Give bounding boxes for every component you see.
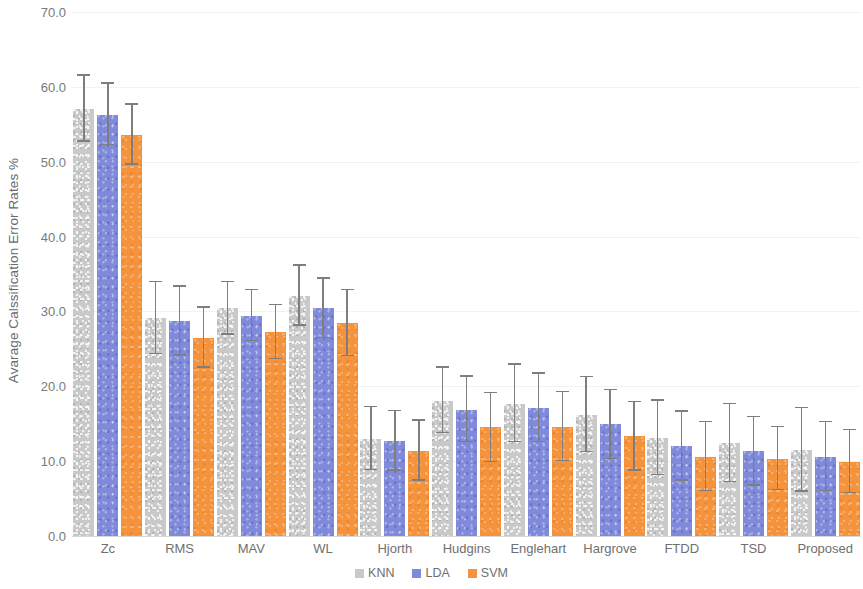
error-bar-line xyxy=(681,412,682,481)
bar-group-bars xyxy=(646,12,718,536)
error-bar-cap-upper xyxy=(723,403,736,404)
bar-lda[interactable] xyxy=(241,316,262,536)
bar-slot xyxy=(408,12,429,536)
y-axis-tick-label: 50.0 xyxy=(22,154,66,169)
error-bar-cap-upper xyxy=(556,391,569,392)
error-bar-cap-lower xyxy=(771,489,784,490)
legend-item-lda[interactable]: LDA xyxy=(412,566,449,580)
error-bar-line xyxy=(825,422,826,491)
error-bar-cap-lower xyxy=(460,441,473,442)
error-bar-cap-lower xyxy=(651,474,664,475)
error-bar-cap-upper xyxy=(221,281,234,282)
bar-slot xyxy=(456,12,477,536)
error-bar-cap-lower xyxy=(77,140,90,141)
bar-slot xyxy=(121,12,142,536)
bar-lda[interactable] xyxy=(97,115,118,536)
error-bar-line xyxy=(514,365,515,443)
error-bar-cap-upper xyxy=(364,406,377,407)
bar-slot xyxy=(671,12,692,536)
error-bar-line xyxy=(203,308,204,368)
error-bar-cap-upper xyxy=(149,281,162,282)
error-bar-cap-upper xyxy=(771,426,784,427)
bar-slot xyxy=(576,12,597,536)
bar-group-bars xyxy=(215,12,287,536)
error-bar-cap-lower xyxy=(317,337,330,338)
bar-slot xyxy=(169,12,190,536)
error-bar-cap-lower xyxy=(436,432,449,433)
error-bar-line xyxy=(729,404,730,482)
error-bar-cap-upper xyxy=(341,289,354,290)
bar-group-bars xyxy=(574,12,646,536)
chart-legend: KNNLDASVM xyxy=(0,566,863,580)
bar-slot xyxy=(360,12,381,536)
error-bar-cap-upper xyxy=(101,82,114,83)
bar-slot xyxy=(600,12,621,536)
error-bar-line xyxy=(777,427,778,490)
error-bar-cap-upper xyxy=(484,392,497,393)
error-bar-line xyxy=(155,282,156,354)
error-bar-cap-lower xyxy=(580,451,593,452)
error-bar-cap-lower xyxy=(556,460,569,461)
bar-slot xyxy=(815,12,836,536)
bar-group xyxy=(72,12,144,536)
bar-knn[interactable] xyxy=(73,109,94,536)
bar-group xyxy=(359,12,431,536)
error-bar-line xyxy=(633,402,634,471)
bar-group-bars xyxy=(789,12,861,536)
error-bar-line xyxy=(251,290,252,341)
bar-group xyxy=(574,12,646,536)
legend-item-svm[interactable]: SVM xyxy=(468,566,508,580)
y-axis-tick-label: 30.0 xyxy=(22,304,66,319)
error-bar-cap-upper xyxy=(532,372,545,373)
bar-group xyxy=(287,12,359,536)
y-axis-tick-labels: 70.060.050.040.030.020.010.00.0 xyxy=(22,0,66,589)
bar-slot xyxy=(337,12,358,536)
y-axis-tick-label: 10.0 xyxy=(22,454,66,469)
bar-slot xyxy=(552,12,573,536)
error-bar-line xyxy=(585,377,586,452)
legend-swatch-icon xyxy=(355,569,364,578)
error-bar-cap-lower xyxy=(699,490,712,491)
bar-slot xyxy=(624,12,645,536)
bar-slot xyxy=(695,12,716,536)
error-bar-cap-upper xyxy=(173,285,186,286)
bar-group xyxy=(215,12,287,536)
y-axis-tick-label: 40.0 xyxy=(22,229,66,244)
error-bar-line xyxy=(466,377,467,443)
x-axis-tick-label: FTDD xyxy=(646,541,718,563)
error-bar-cap-upper xyxy=(675,410,688,411)
bar-knn[interactable] xyxy=(217,308,238,536)
error-bar-cap-upper xyxy=(245,289,258,290)
error-bar-line xyxy=(753,417,754,486)
error-bar-cap-upper xyxy=(293,264,306,265)
bar-svm[interactable] xyxy=(121,135,142,536)
bar-slot xyxy=(384,12,405,536)
bar-slot xyxy=(839,12,860,536)
bar-slot xyxy=(241,12,262,536)
error-bar-line xyxy=(801,408,802,492)
legend-swatch-icon xyxy=(412,569,421,578)
error-bar-line xyxy=(298,266,299,326)
error-bar-cap-lower xyxy=(747,484,760,485)
error-bar-cap-upper xyxy=(412,419,425,420)
error-bar-cap-upper xyxy=(795,407,808,408)
error-bar-cap-lower xyxy=(628,469,641,470)
y-axis-tick-label: 70.0 xyxy=(22,5,66,20)
bar-group-bars xyxy=(287,12,359,536)
error-bar-line xyxy=(275,305,276,359)
bar-group-bars xyxy=(72,12,144,536)
error-bar-cap-upper xyxy=(628,401,641,402)
legend-item-knn[interactable]: KNN xyxy=(355,566,394,580)
x-axis-tick-labels: ZcRMSMAVWLHjorthHudginsEnglehartHargrove… xyxy=(72,541,861,563)
error-bar-cap-lower xyxy=(723,481,736,482)
bar-svm[interactable] xyxy=(265,332,286,536)
legend-swatch-icon xyxy=(468,569,477,578)
bar-knn[interactable] xyxy=(289,296,310,536)
error-bar-cap-lower xyxy=(508,441,521,442)
error-bar-line xyxy=(83,76,84,142)
bar-slot xyxy=(528,12,549,536)
error-bar-cap-lower xyxy=(412,479,425,480)
x-axis-tick-label: Hjorth xyxy=(359,541,431,563)
bar-lda[interactable] xyxy=(313,308,334,536)
error-bar-line xyxy=(562,392,563,461)
